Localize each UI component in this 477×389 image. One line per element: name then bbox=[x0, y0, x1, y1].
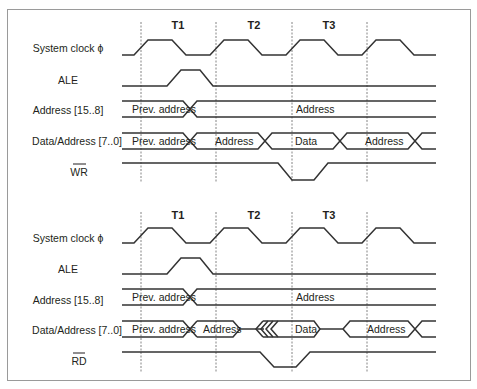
wr-waveform bbox=[122, 163, 436, 180]
write-cycle-diagram: T1 T2 T3 System clock ϕ ALE Address [15.… bbox=[32, 19, 436, 183]
period-label-t2: T2 bbox=[248, 209, 261, 221]
bus-value: Data bbox=[295, 135, 317, 147]
period-label-t2: T2 bbox=[248, 19, 261, 31]
bus-value: Address bbox=[365, 135, 404, 147]
signal-label-wr: WR bbox=[70, 166, 88, 178]
period-label-t1: T1 bbox=[172, 19, 185, 31]
bus-value: Prev. address bbox=[132, 291, 196, 303]
bus-value: Prev. address bbox=[132, 323, 196, 335]
bus-value: Address bbox=[367, 323, 406, 335]
rd-waveform bbox=[122, 352, 436, 367]
signal-label-data-address-low: Data/Address [7..0] bbox=[32, 324, 122, 336]
bus-value: Address bbox=[203, 323, 242, 335]
signal-label-clock: System clock ϕ bbox=[33, 232, 104, 244]
signal-label-ale: ALE bbox=[58, 74, 78, 86]
bus-value: Prev. address bbox=[132, 135, 196, 147]
bus-value: Address bbox=[215, 135, 254, 147]
signal-label-clock: System clock ϕ bbox=[33, 42, 104, 54]
signal-label-ale: ALE bbox=[58, 263, 78, 275]
bus-value: Address bbox=[296, 103, 335, 115]
ale-waveform bbox=[122, 70, 436, 86]
ale-waveform bbox=[122, 258, 436, 274]
signal-label-address-high: Address [15..8] bbox=[33, 294, 104, 306]
bus-value: Data bbox=[295, 323, 317, 335]
clock-waveform bbox=[122, 228, 436, 243]
clock-waveform bbox=[122, 40, 436, 55]
timing-diagrams: T1 T2 T3 System clock ϕ ALE Address [15.… bbox=[0, 0, 477, 389]
bus-value: Address bbox=[296, 291, 335, 303]
signal-label-rd: RD bbox=[71, 355, 87, 367]
read-cycle-diagram: T1 T2 T3 System clock ϕ ALE Address [15.… bbox=[32, 209, 436, 373]
bus-value: Prev. address bbox=[132, 103, 196, 115]
signal-label-address-high: Address [15..8] bbox=[33, 104, 104, 116]
period-label-t1: T1 bbox=[172, 209, 185, 221]
period-label-t3: T3 bbox=[323, 209, 336, 221]
signal-label-data-address-low: Data/Address [7..0] bbox=[32, 135, 122, 147]
period-label-t3: T3 bbox=[323, 19, 336, 31]
